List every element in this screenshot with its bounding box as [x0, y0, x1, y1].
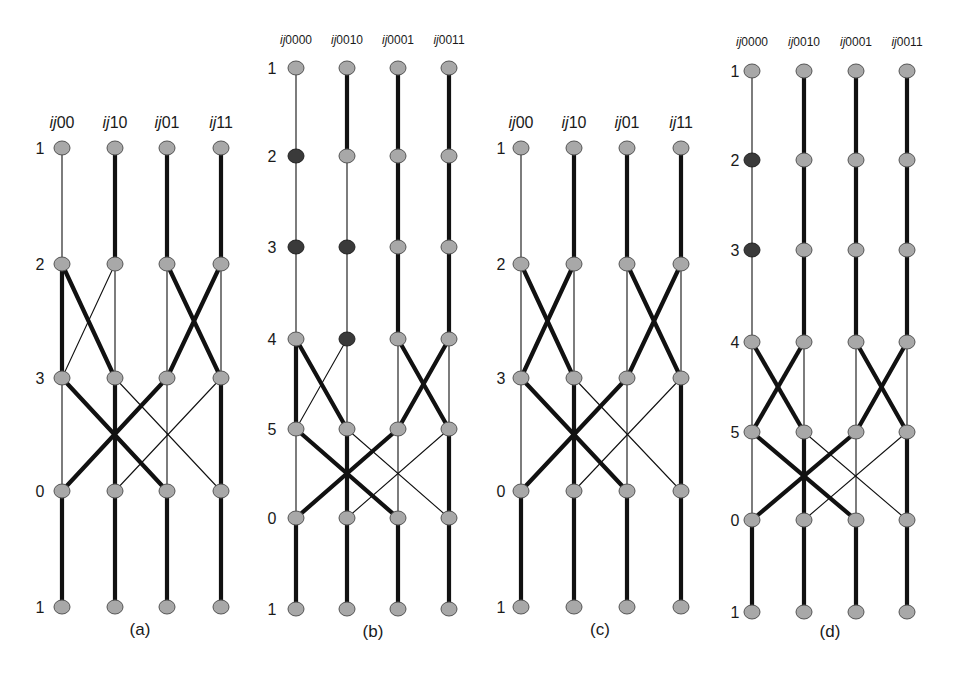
state-node [513, 141, 529, 155]
state-node [899, 605, 915, 619]
state-node [796, 425, 812, 439]
row-label: 2 [268, 148, 277, 165]
row-label: 1 [268, 601, 277, 618]
state-node [54, 257, 70, 271]
state-node [107, 371, 123, 385]
column-header: ij11 [209, 114, 233, 131]
state-node [899, 64, 915, 78]
state-node [390, 149, 406, 163]
state-node [159, 257, 175, 271]
state-node [159, 484, 175, 498]
state-node [390, 61, 406, 75]
row-label: 1 [36, 599, 45, 616]
state-node [848, 605, 864, 619]
column-header: ij0000 [736, 35, 768, 49]
column-header: ij10 [103, 114, 128, 131]
state-node [107, 141, 123, 155]
state-node-highlighted [288, 149, 304, 163]
trellis-diagram-figure: 12301ij00ij10ij01ij11(a) 1234501ij0000ij… [0, 0, 955, 690]
state-node [390, 602, 406, 616]
state-node [619, 371, 635, 385]
state-node [848, 425, 864, 439]
state-node [848, 335, 864, 349]
state-node [848, 513, 864, 527]
state-node [390, 332, 406, 346]
column-header: ij00 [50, 114, 75, 131]
column-header: ij0011 [433, 33, 464, 47]
state-node [619, 484, 635, 498]
state-node [796, 64, 812, 78]
state-node [390, 511, 406, 525]
state-node [288, 332, 304, 346]
edges [62, 148, 221, 607]
state-node [566, 484, 582, 498]
state-node [107, 600, 123, 614]
state-node [848, 243, 864, 257]
row-label: 1 [731, 63, 740, 80]
state-node [796, 335, 812, 349]
row-label: 5 [268, 421, 277, 438]
state-node [796, 605, 812, 619]
state-node [390, 422, 406, 436]
row-label: 1 [497, 140, 506, 157]
panel-caption: (b) [363, 622, 384, 641]
state-node [213, 600, 229, 614]
state-node [848, 153, 864, 167]
row-label: 2 [36, 256, 45, 273]
panel-caption: (c) [590, 620, 610, 639]
state-node [441, 240, 457, 254]
state-node [566, 600, 582, 614]
edges [521, 148, 681, 607]
labels: 1234501ij0000ij0010ij0001ij0011(d) [731, 35, 923, 641]
row-label: 1 [268, 60, 277, 77]
state-node [107, 484, 123, 498]
panel-b: 1234501ij0000ij0010ij0001ij0011(b) [268, 33, 465, 641]
state-node [796, 513, 812, 527]
state-node [213, 141, 229, 155]
row-label: 1 [731, 604, 740, 621]
column-header: ij0001 [840, 35, 872, 49]
state-node [796, 153, 812, 167]
state-node-highlighted [744, 243, 760, 257]
state-node [339, 422, 355, 436]
row-label: 4 [731, 334, 740, 351]
state-node [566, 257, 582, 271]
row-label: 5 [731, 424, 740, 441]
state-node-highlighted [339, 240, 355, 254]
state-node [159, 141, 175, 155]
row-label: 3 [268, 239, 277, 256]
state-node-highlighted [288, 240, 304, 254]
state-node [899, 153, 915, 167]
state-node [619, 141, 635, 155]
state-node [390, 240, 406, 254]
state-node-highlighted [339, 332, 355, 346]
state-node [54, 600, 70, 614]
state-node [566, 371, 582, 385]
row-label: 4 [268, 331, 277, 348]
nodes [288, 61, 457, 616]
state-node [339, 511, 355, 525]
state-node [513, 600, 529, 614]
state-node [899, 243, 915, 257]
state-node [159, 371, 175, 385]
state-node [619, 257, 635, 271]
state-node [744, 64, 760, 78]
state-node [899, 425, 915, 439]
nodes [54, 141, 229, 614]
state-node [744, 513, 760, 527]
state-node [566, 141, 582, 155]
state-node [107, 257, 123, 271]
state-node [54, 141, 70, 155]
state-node [441, 511, 457, 525]
row-label: 0 [36, 483, 45, 500]
column-header: ij01 [155, 114, 180, 131]
state-node [339, 149, 355, 163]
row-label: 0 [268, 510, 277, 527]
panel-a: 12301ij00ij10ij01ij11(a) [36, 114, 233, 639]
panel-c: 12301ij00ij10ij01ij11(c) [497, 114, 693, 639]
state-node [441, 332, 457, 346]
column-header: ij00 [509, 114, 534, 131]
panel-d: 1234501ij0000ij0010ij0001ij0011(d) [731, 35, 923, 641]
state-node [673, 600, 689, 614]
state-node [288, 602, 304, 616]
